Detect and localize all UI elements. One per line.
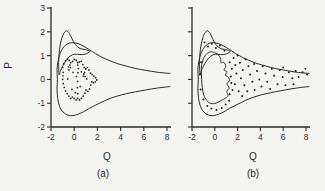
y-tick-label: 3: [40, 3, 45, 13]
data-point: [77, 87, 79, 89]
data-point: [77, 93, 79, 95]
data-point: [62, 67, 64, 69]
data-point: [254, 89, 256, 91]
data-point: [221, 107, 223, 109]
panel-caption-b: (b): [238, 168, 268, 179]
data-point: [62, 79, 64, 81]
data-point: [73, 98, 75, 100]
data-point: [75, 99, 77, 101]
data-point: [95, 77, 97, 79]
data-point: [81, 71, 83, 73]
data-point: [70, 62, 72, 64]
data-point: [62, 83, 64, 85]
data-point: [256, 70, 258, 72]
data-point: [82, 64, 84, 66]
data-point: [77, 98, 79, 100]
data-point: [74, 59, 76, 61]
y-tick-label: 2: [40, 27, 45, 37]
x-tick-label: -2: [188, 132, 196, 142]
data-point: [90, 84, 92, 86]
data-point: [66, 93, 68, 95]
data-point: [240, 77, 242, 79]
x-tick-label: 0: [72, 132, 77, 142]
data-point: [224, 50, 226, 52]
x-tick-label: 2: [95, 132, 100, 142]
outer-horn-curve: [198, 43, 310, 116]
panel-b: -202468: [188, 7, 310, 142]
data-point: [215, 47, 217, 49]
data-point: [70, 98, 72, 100]
data-point: [83, 73, 85, 75]
data-point: [271, 68, 273, 70]
x-axis-label-b: Q: [245, 151, 261, 162]
data-point: [246, 90, 248, 92]
data-point: [247, 65, 249, 67]
data-point: [234, 64, 236, 66]
data-point: [76, 76, 78, 78]
data-point: [69, 64, 71, 66]
data-point: [82, 75, 84, 77]
data-point: [232, 89, 234, 91]
x-tick-label: 8: [304, 132, 309, 142]
data-point: [79, 99, 81, 101]
data-point: [77, 72, 79, 74]
data-point: [96, 79, 98, 81]
data-point: [234, 83, 236, 85]
data-point: [302, 71, 304, 73]
data-point: [93, 75, 95, 77]
data-point: [63, 63, 65, 65]
data-point: [237, 55, 239, 57]
data-point: [85, 68, 87, 70]
data-point: [293, 83, 295, 85]
x-axis-label-a: Q: [99, 151, 115, 162]
panel-a: -2-10123-202468: [37, 3, 171, 142]
x-tick-label: -2: [47, 132, 55, 142]
data-point: [210, 107, 212, 109]
data-point: [77, 64, 79, 66]
panel-caption-a: (a): [88, 168, 118, 179]
y-tick-label: 1: [40, 51, 45, 61]
data-point: [265, 72, 267, 74]
data-point: [199, 74, 201, 76]
data-point: [251, 81, 253, 83]
phase-space-figure: -2-10123-202468-202468 P Q (a) Q (b): [0, 0, 325, 191]
data-point: [239, 62, 241, 64]
data-point: [86, 78, 88, 80]
data-point: [261, 86, 263, 88]
data-point: [84, 76, 86, 78]
data-point: [84, 71, 86, 73]
data-point: [266, 81, 268, 83]
x-tick-label: 4: [118, 132, 123, 142]
data-point: [273, 75, 275, 77]
data-point: [68, 66, 70, 68]
x-tick-label: 4: [258, 132, 263, 142]
data-point: [298, 76, 300, 78]
data-point: [228, 100, 230, 102]
data-point: [68, 60, 70, 62]
scatter-dots: [199, 42, 308, 111]
data-point: [238, 90, 240, 92]
data-point: [206, 105, 208, 107]
data-point: [236, 72, 238, 74]
data-point: [229, 61, 231, 63]
data-point: [65, 90, 67, 92]
data-point: [262, 65, 264, 67]
outer-horn-curve: [57, 43, 171, 116]
data-point: [207, 46, 209, 48]
data-point: [277, 83, 279, 85]
data-point: [288, 71, 290, 73]
data-point: [211, 43, 213, 45]
data-point: [200, 61, 202, 63]
data-point: [75, 60, 77, 62]
data-point: [295, 70, 297, 72]
data-point: [225, 103, 227, 105]
data-point: [75, 92, 77, 94]
x-tick-label: 8: [165, 132, 170, 142]
data-point: [68, 95, 70, 97]
y-tick-label: 0: [40, 74, 45, 84]
data-point: [269, 88, 271, 90]
data-point: [282, 76, 284, 78]
data-point: [219, 45, 221, 47]
inner-blob-curve: [201, 52, 229, 104]
x-tick-label: 0: [212, 132, 217, 142]
